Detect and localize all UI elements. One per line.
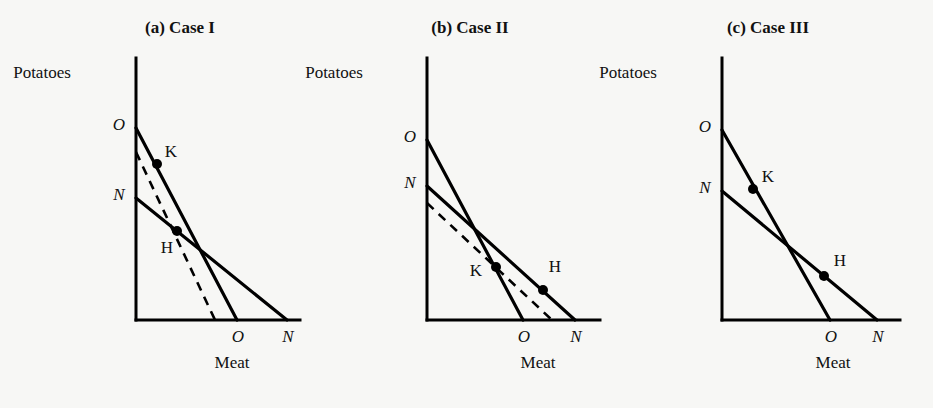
panel-case-2: (b) Case IIPotatoesMeatOONNKH: [305, 18, 600, 372]
y-axis-label: Potatoes: [305, 63, 363, 82]
point-label-H: H: [549, 257, 561, 276]
budget-line-N: [722, 191, 877, 320]
budget-line-N: [136, 198, 287, 320]
point-H: [538, 285, 548, 295]
x-intercept-label-N: N: [871, 327, 885, 346]
budget-line-O: [722, 130, 830, 320]
y-axis-label: Potatoes: [599, 63, 657, 82]
x-intercept-label-O: O: [232, 327, 244, 346]
figure-canvas: (a) Case IPotatoesMeatOONNKH(b) Case IIP…: [0, 0, 933, 408]
x-axis-label: Meat: [521, 353, 556, 372]
y-intercept-label-O: O: [699, 117, 711, 136]
x-axis-label: Meat: [215, 353, 250, 372]
panel-case-3: (c) Case IIIPotatoesMeatOONNKH: [599, 18, 900, 372]
point-label-H: H: [834, 251, 846, 270]
point-K: [152, 159, 162, 169]
point-label-H: H: [161, 238, 173, 257]
panel-title-case-2: (b) Case II: [431, 18, 509, 37]
x-intercept-label-O: O: [518, 327, 530, 346]
y-intercept-label-N: N: [698, 178, 712, 197]
point-label-K: K: [470, 261, 483, 280]
panel-case-1: (a) Case IPotatoesMeatOONNKH: [13, 18, 300, 372]
panel-title-case-3: (c) Case III: [727, 18, 810, 37]
y-intercept-label-O: O: [404, 127, 416, 146]
budget-line-O: [136, 128, 237, 320]
point-H: [172, 226, 182, 236]
y-axis-label: Potatoes: [13, 63, 71, 82]
point-label-K: K: [762, 167, 775, 186]
x-axis-label: Meat: [816, 353, 851, 372]
economics-figure: (a) Case IPotatoesMeatOONNKH(b) Case IIP…: [0, 0, 933, 408]
point-H: [819, 271, 829, 281]
y-intercept-label-N: N: [403, 173, 417, 192]
point-K: [748, 184, 758, 194]
y-intercept-label-N: N: [112, 185, 126, 204]
x-intercept-label-N: N: [569, 327, 583, 346]
budget-line-compensated-dashed: [427, 203, 552, 320]
panel-title-case-1: (a) Case I: [145, 18, 215, 37]
budget-line-compensated-dashed: [136, 152, 215, 320]
point-K: [491, 262, 501, 272]
budget-line-N: [427, 186, 575, 320]
x-intercept-label-O: O: [825, 327, 837, 346]
x-intercept-label-N: N: [281, 327, 295, 346]
point-label-K: K: [165, 142, 178, 161]
y-intercept-label-O: O: [113, 115, 125, 134]
